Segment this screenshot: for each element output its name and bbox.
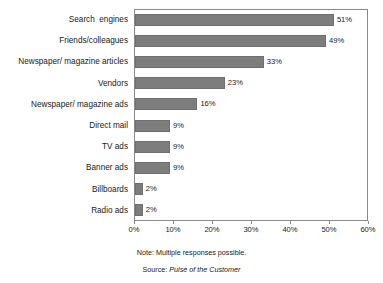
chart-row: Banner ads9% <box>0 157 383 178</box>
note-text: Note: Multiple responses possible. <box>0 248 383 257</box>
x-axis-tick-label: 60% <box>360 225 375 234</box>
x-axis-tick-label: 10% <box>165 225 180 234</box>
chart-row: TV ads9% <box>0 136 383 157</box>
bar <box>135 98 197 110</box>
bar-with-value: 2% <box>135 204 157 216</box>
category-label: Radio ads <box>0 206 128 215</box>
chart-row: Billboards2% <box>0 179 383 200</box>
bar <box>135 204 143 216</box>
chart-row: Direct mail9% <box>0 115 383 136</box>
bar <box>135 162 170 174</box>
chart-row: Newspaper/ magazine ads16% <box>0 94 383 115</box>
x-axis-tick <box>212 221 213 224</box>
bar-value-label: 23% <box>228 79 243 87</box>
bar-value-label: 9% <box>173 122 184 130</box>
bar <box>135 77 225 89</box>
bar-value-label: 2% <box>146 185 157 193</box>
chart-row: Friends/colleagues49% <box>0 30 383 51</box>
source-prefix: Source: <box>143 265 170 274</box>
x-axis-tick-label: 40% <box>282 225 297 234</box>
bar-value-label: 9% <box>173 143 184 151</box>
x-axis-tick <box>329 221 330 224</box>
bar <box>135 183 143 195</box>
category-label: Banner ads <box>0 163 128 172</box>
bar-value-label: 16% <box>200 100 215 108</box>
bar-with-value: 51% <box>135 14 352 26</box>
bar-chart-figure: Search engines51%Friends/colleagues49%Ne… <box>0 0 383 283</box>
category-label: Newspaper/ magazine ads <box>0 100 128 109</box>
x-axis: 0%10%20%30%40%50%60% <box>134 221 368 237</box>
bar-with-value: 9% <box>135 141 184 153</box>
bar-with-value: 9% <box>135 162 184 174</box>
bar <box>135 141 170 153</box>
bar-value-label: 2% <box>146 206 157 214</box>
bar-with-value: 2% <box>135 183 157 195</box>
x-axis-tick <box>134 221 135 224</box>
bar <box>135 35 326 47</box>
bar-rows-container: Search engines51%Friends/colleagues49%Ne… <box>0 9 383 221</box>
bar <box>135 120 170 132</box>
bar-value-label: 9% <box>173 164 184 172</box>
source-text: Source: Pulse of the Customer <box>0 265 383 274</box>
chart-row: Vendors23% <box>0 73 383 94</box>
bar-value-label: 51% <box>337 16 352 24</box>
bar-with-value: 33% <box>135 56 282 68</box>
bar <box>135 14 334 26</box>
bar-value-label: 49% <box>329 37 344 45</box>
chart-row: Newspaper/ magazine articles33% <box>0 51 383 72</box>
chart-row: Radio ads2% <box>0 200 383 221</box>
category-label: Search engines <box>0 15 128 24</box>
category-label: Vendors <box>0 79 128 88</box>
x-axis-tick-label: 20% <box>204 225 219 234</box>
category-label: TV ads <box>0 142 128 151</box>
x-axis-tick-label: 30% <box>243 225 258 234</box>
bar-with-value: 49% <box>135 35 344 47</box>
x-axis-tick <box>173 221 174 224</box>
category-label: Friends/colleagues <box>0 36 128 45</box>
chart-footnotes: Note: Multiple responses possible. Sourc… <box>0 248 383 282</box>
category-label: Newspaper/ magazine articles <box>0 57 128 66</box>
x-axis-tick <box>251 221 252 224</box>
bar-with-value: 16% <box>135 98 216 110</box>
x-axis-tick <box>368 221 369 224</box>
category-label: Direct mail <box>0 121 128 130</box>
bar-with-value: 23% <box>135 77 243 89</box>
x-axis-tick-label: 50% <box>321 225 336 234</box>
category-label: Billboards <box>0 185 128 194</box>
source-title: Pulse of the Customer <box>169 265 240 274</box>
bar <box>135 56 264 68</box>
bar-value-label: 33% <box>267 58 282 66</box>
bar-with-value: 9% <box>135 120 184 132</box>
x-axis-tick <box>290 221 291 224</box>
x-axis-tick-label: 0% <box>129 225 140 234</box>
chart-row: Search engines51% <box>0 9 383 30</box>
